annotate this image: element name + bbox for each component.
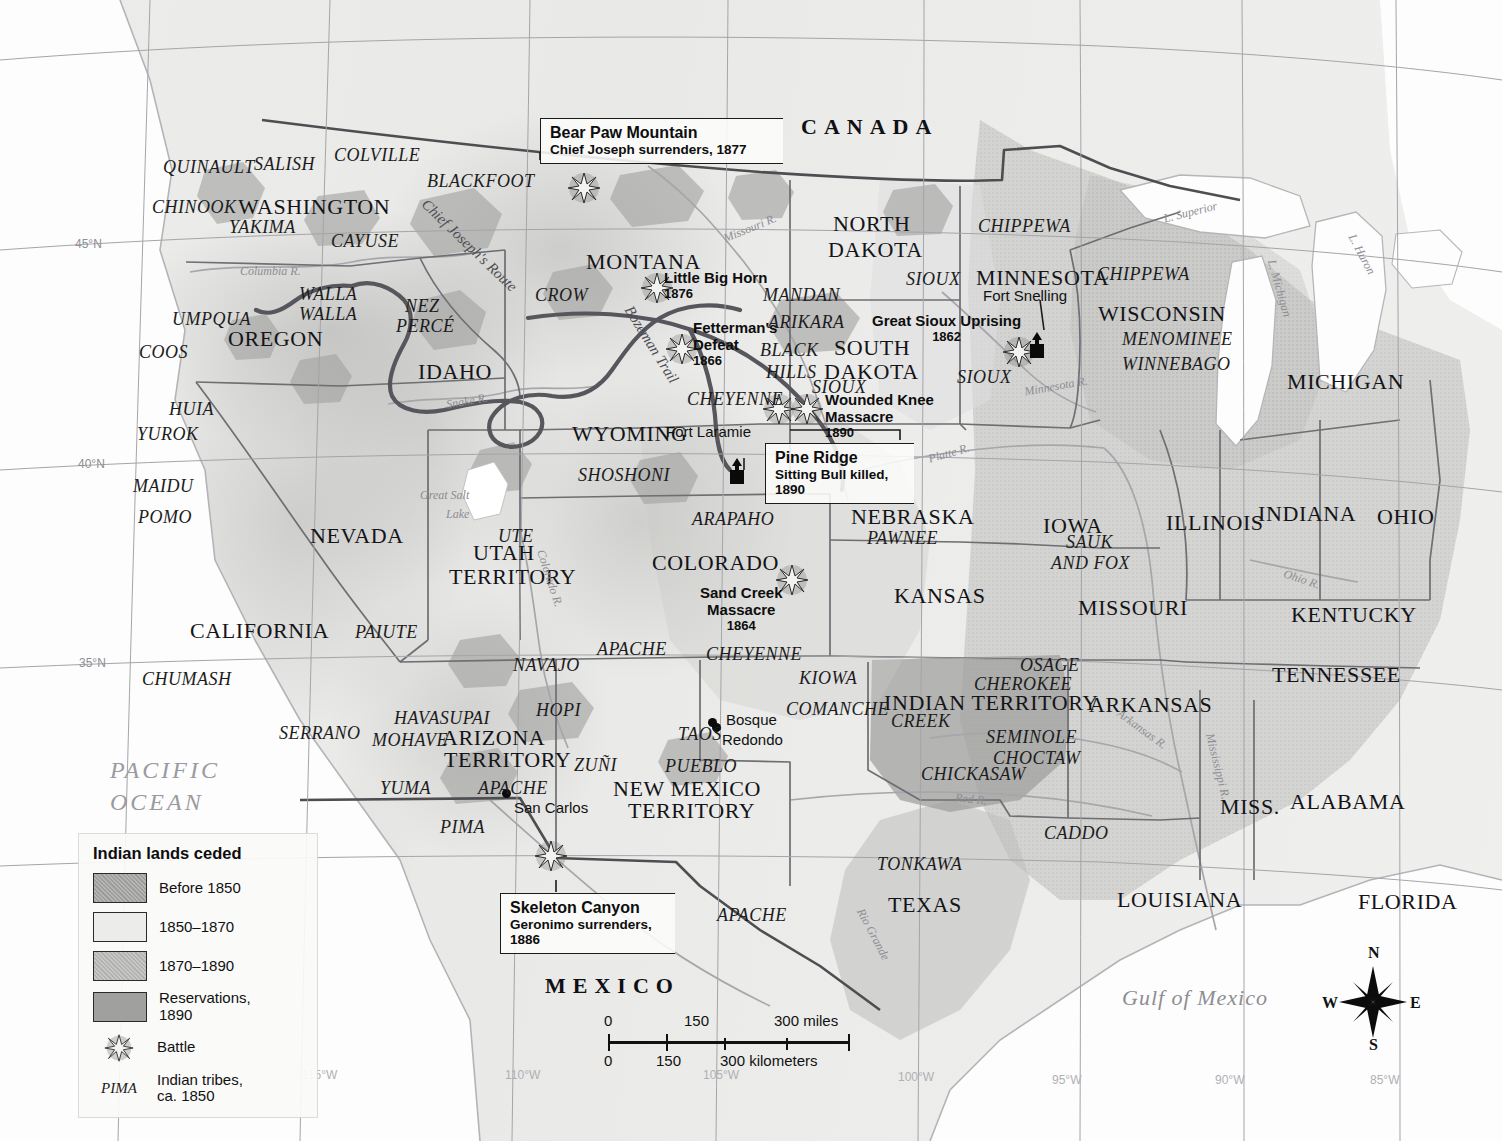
callout-skeleton-canyon[interactable]: Skeleton Canyon Geronimo surrenders, 188… (500, 893, 675, 954)
legend-label: Indian tribes, (157, 1072, 243, 1089)
compass-east: E (1410, 994, 1421, 1012)
scale-miles-0: 0 (604, 1012, 612, 1029)
legend-item-indian-tribes[interactable]: PIMA Indian tribes, ca. 1850 (93, 1072, 305, 1106)
state-label-territory-27: TERRITORY (444, 748, 571, 771)
ocean-label-gulf-of-mexico: Gulf of Mexico (1122, 986, 1268, 1009)
fort-snelling-marker[interactable] (1026, 332, 1048, 358)
site-label-fort-snelling: Fort Snelling (983, 288, 1067, 304)
battle-label-year: 1862 (872, 330, 1021, 345)
tribe-label-winnebago-26: WINNEBAGO (1122, 355, 1230, 374)
tribe-label-paiute-36: PAIUTE (355, 623, 418, 642)
battle-label-line1: Fetterman's (693, 320, 777, 337)
tribe-label-sioux-20: SIOUX (906, 270, 961, 289)
tribe-label-yurok-14: YUROK (137, 425, 199, 444)
state-label-nevada-12: NEVADA (310, 524, 404, 547)
tribe-label-mohave-52: MOHAVE (372, 731, 448, 750)
legend-item-1850-1870[interactable]: 1850–1870 (93, 912, 305, 942)
latitude-label-35-n: 35°N (79, 657, 106, 670)
legend-label-line2: ca. 1850 (157, 1088, 243, 1105)
legend-swatch-reservations (93, 992, 147, 1022)
legend-item-battle[interactable]: Battle (93, 1033, 305, 1063)
callout-title: Bear Paw Mountain (550, 124, 774, 142)
water-label-lake-4: Lake (446, 508, 469, 521)
tribe-label-sauk-33: SAUK (1066, 533, 1113, 552)
legend-label: 1870–1890 (159, 958, 234, 975)
state-label-california-25: CALIFORNIA (190, 619, 329, 642)
water-label-great-salt-3: Great Salt (420, 489, 469, 502)
tribe-label-sioux-23: SIOUX (957, 368, 1012, 387)
legend-item-before-1850[interactable]: Before 1850 (93, 873, 305, 903)
fort-laramie-marker[interactable] (726, 458, 748, 484)
tribe-label-kiowa-41: KIOWA (799, 669, 857, 688)
legend-swatch-1870-1890 (93, 951, 147, 981)
tribe-label-yuma-56: YUMA (380, 779, 431, 798)
battle-label-line2: Massacre (825, 409, 934, 426)
longitude-label-85-w: 85°W (1370, 1074, 1399, 1087)
tribe-label-pawnee-32: PAWNEE (867, 529, 938, 548)
callout-subtitle: Chief Joseph surrenders, 1877 (550, 142, 774, 157)
tribe-label-colville-2: COLVILLE (334, 146, 420, 165)
battle-bear-paw-mountain[interactable] (567, 171, 601, 205)
scale-bar-line (608, 1041, 850, 1044)
longitude-label-100-w: 100°W (898, 1071, 934, 1084)
tribe-label-cayuse-6: CAYUSE (331, 232, 399, 251)
site-label-san-carlos: San Carlos (514, 800, 588, 816)
site-label-fort-laramie: Fort Laramie (666, 424, 751, 440)
battle-skeleton-canyon[interactable] (534, 839, 568, 873)
tribe-label-crow-17: CROW (535, 286, 588, 305)
legend-item-1870-1890[interactable]: 1870–1890 (93, 951, 305, 981)
state-label-arizona-26: ARIZONA (442, 726, 545, 749)
tribe-label-hopi-51: HOPI (536, 701, 581, 720)
battle-label-year: 1890 (825, 426, 934, 441)
state-label-oregon-1: OREGON (228, 327, 323, 350)
tribe-label-havasupai-50: HAVASUPAI (394, 709, 490, 728)
state-label-wisconsin-9: WISCONSIN (1098, 302, 1226, 325)
scale-miles-300: 300 miles (774, 1012, 838, 1029)
tribe-label-huia-13: HUIA (169, 400, 214, 419)
compass-rose: N E S W (1324, 948, 1422, 1052)
state-label-illinois-18: ILLINOIS (1166, 511, 1264, 534)
tribe-label-ute-35: UTE (498, 527, 534, 546)
state-label-colorado-15: COLORADO (652, 551, 779, 574)
tribe-label-cherokee-43: CHEROKEE (974, 675, 1072, 694)
scale-miles-150: 150 (684, 1012, 709, 1029)
battle-label-sand-creek: Sand Creek Massacre 1864 (700, 585, 783, 633)
battle-label-title: Little Big Horn (664, 270, 767, 287)
tribe-label-zu-i-53: ZUÑI (574, 756, 617, 775)
tribe-label-osage-42: OSAGE (1020, 656, 1080, 675)
country-label-mexico: MEXICO (545, 974, 680, 997)
tribe-label-mandan-21: MANDAN (763, 286, 840, 305)
scale-km-300: 300 kilometers (720, 1052, 818, 1069)
battle-wounded-knee-b[interactable] (790, 392, 824, 426)
legend-item-reservations-1890[interactable]: Reservations, 1890 (93, 990, 305, 1024)
battle-label-wounded-knee: Wounded Knee Massacre 1890 (825, 392, 934, 440)
callout-bear-paw-mountain[interactable]: Bear Paw Mountain Chief Joseph surrender… (540, 118, 783, 164)
battle-label-line2: Defeat (693, 337, 777, 354)
longitude-label-95-w: 95°W (1052, 1074, 1081, 1087)
scale-bar: 0 150 300 miles 0 150 300 kilometers (608, 1012, 858, 1074)
legend-label-wrap: Indian tribes, ca. 1850 (157, 1072, 243, 1106)
battle-label-line1: Wounded Knee (825, 392, 934, 409)
tribe-label-tonkawa-60: TONKAWA (877, 855, 962, 874)
battle-label-year: 1864 (700, 619, 783, 634)
legend-swatch-battle (93, 1033, 145, 1063)
state-label-ohio-20: OHIO (1377, 505, 1434, 528)
tribe-label-creek-45: CREEK (891, 712, 951, 731)
tribe-label-apache-57: APACHE (478, 779, 548, 798)
callout-title: Skeleton Canyon (510, 899, 666, 917)
state-label-missouri-22: MISSOURI (1078, 596, 1188, 619)
callout-pine-ridge[interactable]: Pine Ridge Sitting Bull killed, 1890 (765, 443, 914, 504)
battle-label-year: 1876 (664, 287, 767, 302)
tribe-label-chippewa-19: CHIPPEWA (1097, 265, 1190, 284)
tribe-label-perc-10: PERCÉ (396, 317, 455, 336)
site-label-redondo: Redondo (722, 732, 783, 748)
tribe-label-caddo-59: CADDO (1044, 824, 1109, 843)
battle-label-fettermans-defeat: Fetterman's Defeat 1866 (693, 320, 777, 368)
state-label-new-mexico-28: NEW MEXICO (613, 777, 761, 800)
tribe-label-taos-54: TAOS (678, 725, 722, 744)
state-label-tennessee-24: TENNESSEE (1272, 663, 1401, 686)
compass-south: S (1369, 1036, 1378, 1054)
scale-tick (724, 1038, 726, 1050)
tribe-label-arapaho-31: ARAPAHO (692, 510, 774, 529)
tribe-label-chumash-37: CHUMASH (142, 670, 232, 689)
